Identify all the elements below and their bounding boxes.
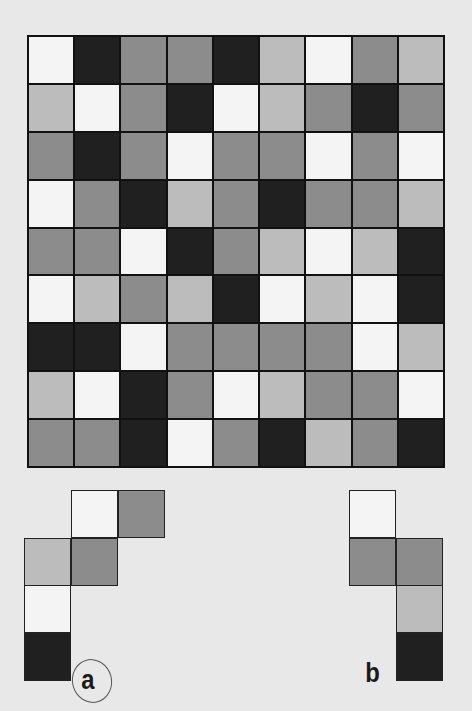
grid-cell	[259, 132, 305, 180]
grid-cell	[120, 180, 166, 228]
grid-cell	[398, 419, 444, 467]
piece-b-label: b	[365, 657, 380, 689]
grid-cell	[213, 180, 259, 228]
piece-cell	[396, 633, 443, 681]
grid-cell	[167, 84, 213, 132]
grid-cell	[213, 371, 259, 419]
grid-cell	[305, 36, 351, 84]
grid-cell	[352, 84, 398, 132]
grid-cell	[352, 132, 398, 180]
piece-cell	[396, 585, 443, 633]
grid-cell	[352, 228, 398, 276]
piece-cell	[349, 490, 396, 538]
grid-cell	[213, 36, 259, 84]
grid-cell	[213, 84, 259, 132]
grid-cell	[74, 228, 120, 276]
grid-cell	[167, 323, 213, 371]
grid-cell	[74, 275, 120, 323]
grid-cell	[120, 323, 166, 371]
grid-cell	[259, 323, 305, 371]
grid-cell	[213, 132, 259, 180]
grid-cell	[352, 371, 398, 419]
grid-cell	[74, 36, 120, 84]
grid-cell	[28, 132, 74, 180]
grid-cell	[398, 180, 444, 228]
grid-cell	[398, 275, 444, 323]
grid-cell	[167, 275, 213, 323]
grid-cell	[398, 323, 444, 371]
grid-cell	[305, 132, 351, 180]
grid-cell	[213, 323, 259, 371]
piece-cell	[24, 538, 71, 586]
grid-cell	[305, 419, 351, 467]
grid-cell	[305, 180, 351, 228]
grid-cell	[305, 275, 351, 323]
grid-cell	[167, 228, 213, 276]
grid-cell	[259, 371, 305, 419]
piece-cell	[24, 585, 71, 633]
grid-cell	[74, 180, 120, 228]
grid-cell	[213, 228, 259, 276]
grid-cell	[120, 275, 166, 323]
piece-cell	[396, 538, 443, 586]
grid-cell	[398, 371, 444, 419]
grid-cell	[74, 419, 120, 467]
grid-cell	[259, 84, 305, 132]
grid-cell	[398, 132, 444, 180]
grid-cell	[28, 323, 74, 371]
grid-cell	[74, 323, 120, 371]
grid-cell	[120, 228, 166, 276]
grid-cell	[28, 36, 74, 84]
grid-cell	[398, 84, 444, 132]
grid-cell	[120, 419, 166, 467]
grid-cell	[259, 228, 305, 276]
grid-cell	[167, 371, 213, 419]
grid-cell	[213, 275, 259, 323]
grid-cell	[74, 132, 120, 180]
grid-cell	[305, 323, 351, 371]
grid-cell	[167, 132, 213, 180]
grid-cell	[167, 419, 213, 467]
piece-cell	[349, 538, 396, 586]
piece-cell	[71, 538, 118, 586]
grid-cell	[120, 84, 166, 132]
grid-cell	[305, 84, 351, 132]
piece-cell	[24, 633, 71, 681]
grid-cell	[213, 419, 259, 467]
grid-cell	[398, 36, 444, 84]
grid-cell	[259, 275, 305, 323]
grid-cell	[28, 419, 74, 467]
puzzle-grid	[27, 35, 445, 468]
grid-cell	[398, 228, 444, 276]
grid-cell	[167, 36, 213, 84]
grid-cell	[120, 371, 166, 419]
grid-cell	[305, 371, 351, 419]
grid-cell	[28, 228, 74, 276]
grid-cell	[305, 228, 351, 276]
piece-cell	[71, 490, 118, 538]
grid-cell	[74, 371, 120, 419]
grid-cell	[352, 36, 398, 84]
grid-cell	[28, 180, 74, 228]
grid-cell	[74, 84, 120, 132]
piece-a-label: a	[81, 664, 94, 696]
grid-cell	[28, 275, 74, 323]
grid-cell	[28, 84, 74, 132]
grid-cell	[352, 419, 398, 467]
grid-cell	[259, 419, 305, 467]
grid-cell	[259, 36, 305, 84]
piece-cell	[118, 490, 165, 538]
grid-cell	[352, 323, 398, 371]
grid-cell	[28, 371, 74, 419]
grid-cell	[167, 180, 213, 228]
grid-cell	[120, 132, 166, 180]
grid-cell	[259, 180, 305, 228]
grid-cell	[120, 36, 166, 84]
grid-cell	[352, 275, 398, 323]
grid-cell	[352, 180, 398, 228]
